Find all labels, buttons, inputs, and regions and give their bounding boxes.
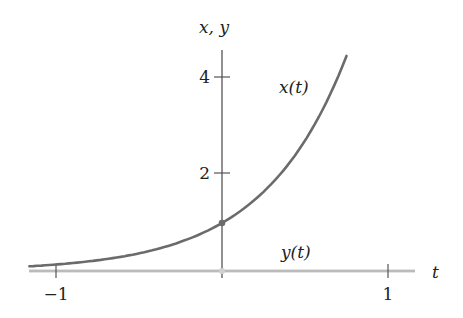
x0-point xyxy=(219,220,226,227)
y-axis-label: x, y xyxy=(199,17,229,37)
tick-label-4: 4 xyxy=(199,67,210,87)
tick-label-2: 2 xyxy=(199,163,210,183)
x-curve-label: x(t) xyxy=(279,77,309,97)
tick-label-neg1: −1 xyxy=(43,284,68,304)
plot-area: x, y t x(t) y(t) −1 1 4 2 xyxy=(0,0,463,318)
t-axis-label: t xyxy=(432,262,439,282)
tick-label-1: 1 xyxy=(383,284,394,304)
y0-point xyxy=(219,268,225,274)
y-curve-label: y(t) xyxy=(280,242,311,262)
